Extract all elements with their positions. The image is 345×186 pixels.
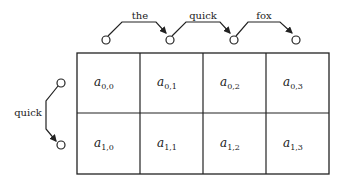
left-node-1 <box>57 141 65 149</box>
cell-1-1: a1,1 <box>157 136 177 152</box>
top-node-1 <box>166 36 174 44</box>
left-edge-quick: quick <box>14 86 58 141</box>
top-node-3 <box>292 36 300 44</box>
top-edge-the: the <box>108 10 166 36</box>
left-node-0 <box>57 79 65 87</box>
cell-0-2: a0,2 <box>220 75 240 91</box>
edge-label-the: the <box>132 10 148 21</box>
edge-label-left-quick: quick <box>14 107 43 118</box>
edge-label-fox: fox <box>256 10 272 21</box>
cell-1-0: a1,0 <box>94 136 114 152</box>
top-node-0 <box>102 36 110 44</box>
cell-1-2: a1,2 <box>220 136 240 152</box>
top-edge-quick: quick <box>172 10 230 36</box>
top-edge-fox: fox <box>236 10 292 36</box>
cell-0-3: a0,3 <box>283 75 303 91</box>
cell-0-0: a0,0 <box>94 75 114 91</box>
matrix-grid <box>77 53 329 174</box>
edge-label-quick: quick <box>189 10 218 21</box>
cell-0-1: a0,1 <box>157 75 177 91</box>
diagram-canvas: the quick fox quick a0,0 a0,1 a0,2 a0,3 … <box>0 0 345 186</box>
cell-1-3: a1,3 <box>283 136 303 152</box>
top-node-2 <box>230 36 238 44</box>
